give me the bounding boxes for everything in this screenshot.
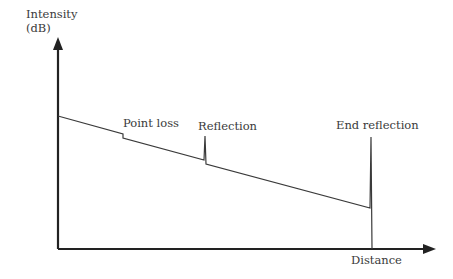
- point-loss-label: Point loss: [123, 117, 179, 130]
- y-axis-unit-label: (dB): [26, 22, 51, 35]
- end-reflection-label: End reflection: [336, 119, 419, 132]
- otdr-diagram: [0, 0, 453, 279]
- y-axis-arrow-icon: [53, 37, 63, 50]
- x-axis-arrow-icon: [423, 244, 436, 254]
- reflection-label: Reflection: [198, 120, 257, 133]
- x-axis-label: Distance: [351, 254, 402, 267]
- y-axis-label: Intensity: [26, 8, 77, 21]
- otdr-trace: [58, 116, 372, 249]
- y-axis: [53, 37, 63, 249]
